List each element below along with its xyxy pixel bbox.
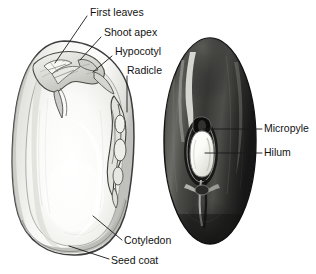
label-seed-coat: Seed coat [111, 254, 158, 266]
label-first-leaves: First leaves [90, 6, 144, 18]
label-hypocotyl: Hypocotyl [115, 45, 161, 57]
micropyle-pore [198, 120, 206, 132]
cotyledon-center-light [44, 160, 104, 232]
whole-bean-specimen [164, 38, 256, 246]
split-bean-specimen [9, 41, 134, 255]
label-hilum: Hilum [264, 146, 291, 158]
radicle-node-2 [114, 139, 126, 161]
radicle-node-1 [115, 115, 125, 133]
label-radicle: Radicle [127, 64, 162, 76]
bean-bottom-darken [164, 214, 256, 246]
label-shoot-apex: Shoot apex [104, 26, 158, 38]
label-cotyledon: Cotyledon [124, 234, 171, 246]
seed-anatomy-figure: First leaves Shoot apex Hypocotyl Radicl… [0, 0, 316, 274]
raphe-node [195, 185, 209, 195]
radicle-node-3 [113, 167, 123, 185]
label-micropyle: Micropyle [264, 122, 309, 134]
